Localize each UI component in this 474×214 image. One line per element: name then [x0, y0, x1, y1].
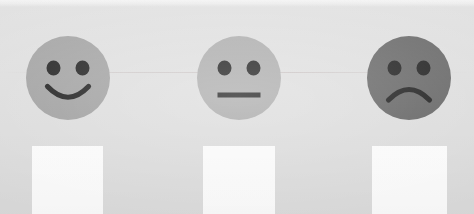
checkbox-sad[interactable]	[372, 146, 447, 214]
right-eye	[247, 60, 261, 75]
checkbox-happy[interactable]	[32, 146, 103, 214]
face-circle-neutral	[197, 36, 281, 120]
checkbox-neutral[interactable]	[203, 146, 275, 214]
face-circle-happy	[26, 36, 110, 120]
right-eye	[76, 60, 90, 75]
face-circle-sad	[367, 36, 451, 120]
smiley-neutral-face-icon[interactable]	[197, 36, 281, 120]
left-eye	[218, 60, 232, 75]
survey-rating-sheet	[0, 0, 474, 214]
left-eye	[388, 60, 402, 75]
sheet-top-edge	[0, 0, 474, 7]
smiley-happy-face-icon[interactable]	[26, 36, 110, 120]
right-eye	[417, 60, 431, 75]
smiley-sad-face-icon[interactable]	[367, 36, 451, 120]
left-eye	[47, 60, 61, 75]
